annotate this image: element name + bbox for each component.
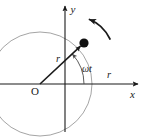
x-axis-label: x bbox=[129, 88, 135, 100]
angle-label: ωt bbox=[82, 63, 92, 74]
circular-motion-figure: y x O r r ωt bbox=[0, 0, 145, 139]
origin-label: O bbox=[31, 85, 39, 97]
y-axis-label: y bbox=[70, 3, 76, 15]
radius-axis-label: r bbox=[107, 69, 112, 80]
particle-dot bbox=[79, 38, 88, 47]
radius-vector bbox=[40, 46, 81, 84]
radius-vector-label: r bbox=[56, 53, 61, 64]
diagram-canvas: y x O r r ωt bbox=[0, 0, 145, 139]
rotation-direction-arrow bbox=[90, 20, 111, 40]
